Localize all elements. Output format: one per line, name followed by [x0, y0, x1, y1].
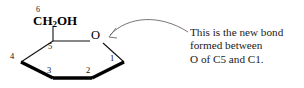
- carbon-number-5-label: 5: [48, 42, 52, 51]
- ch2oh-subscript: 2: [53, 19, 58, 29]
- annotation-pointer-curve: [110, 20, 188, 35]
- annotation-line-3: O of C5 and C1.: [190, 53, 304, 66]
- ring-oxygen-label: O: [91, 29, 100, 42]
- carbon-number-4-label: 4: [10, 52, 14, 61]
- bond-c2-c1-bold: [92, 62, 124, 78]
- chemical-structure-figure: O CH2OH 6 1 2 3 4 5 This is the new bond…: [0, 0, 304, 88]
- carbon-number-3-label: 3: [47, 66, 51, 75]
- annotation-line-1: This is the new bond: [190, 26, 304, 39]
- ch2oh-oh: OH: [57, 13, 77, 28]
- annotation-line-2: formed between: [190, 39, 304, 52]
- ch2oh-substituent-label: CH2OH: [33, 14, 77, 27]
- carbon-number-6-label: 6: [36, 6, 40, 14]
- ch2oh-c: CH: [33, 13, 53, 28]
- carbon-number-2-label: 2: [86, 66, 90, 75]
- carbon-number-1-label: 1: [110, 54, 114, 63]
- annotation-text-block: This is the new bond formed between O of…: [190, 26, 304, 66]
